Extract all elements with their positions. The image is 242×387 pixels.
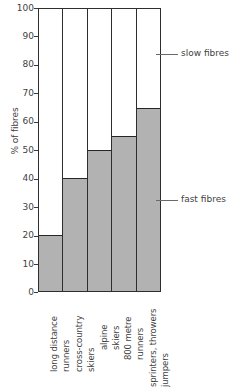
y-tick-label-10: 10: [12, 260, 34, 269]
bar-column-alpine-skiers: [88, 9, 112, 291]
y-tick-label-70: 70: [12, 89, 34, 98]
x-category-0-line-1: runners: [61, 316, 73, 372]
y-tick-label-100: 100: [12, 4, 34, 13]
x-category-4-line-0: sprinters, throwers: [148, 309, 160, 387]
bars-layer: [39, 9, 160, 291]
bar-column-sprinters-throwers-jumpers: [137, 9, 160, 291]
x-axis-categories: long distance runners cross-country skie…: [38, 292, 161, 374]
bar-fast-fibres-3: [112, 136, 135, 291]
x-category-0-line-0: long distance: [49, 316, 61, 372]
x-category-2-line-1: skiers: [111, 325, 123, 350]
x-category-1-line-1: skiers: [86, 316, 98, 372]
x-category-1-line-0: cross-country: [74, 316, 86, 372]
bar-fast-fibres-1: [63, 178, 86, 291]
fast-fibres-leader-line: [156, 200, 178, 201]
y-tick-label-80: 80: [12, 60, 34, 69]
bar-fast-fibres-2: [88, 150, 111, 291]
y-tick-label-40: 40: [12, 174, 34, 183]
y-tick-label-50: 50: [12, 146, 34, 155]
y-tick-label-60: 60: [12, 117, 34, 126]
bar-fast-fibres-0: [39, 235, 62, 291]
fast-fibres-label: fast fibres: [181, 194, 226, 204]
slow-fibres-leader-line: [156, 54, 178, 55]
bar-column-cross-country-skiers: [63, 9, 87, 291]
bar-column-800-metre-runners: [112, 9, 136, 291]
x-category-3-line-0: 800 metre: [123, 317, 135, 360]
bar-column-long-distance-runners: [39, 9, 63, 291]
slow-fibres-label: slow fibres: [181, 48, 229, 58]
y-tick-label-20: 20: [12, 231, 34, 240]
y-tick-label-0: 0: [12, 288, 34, 297]
y-axis-ticks: 100 90 80 70 60 50 40 30 20 10 0: [10, 0, 34, 374]
plot-area: [38, 8, 161, 292]
x-category-2-line-0: alpine: [99, 325, 111, 350]
y-tick-label-90: 90: [12, 32, 34, 41]
y-tick-label-30: 30: [12, 203, 34, 212]
x-category-4-line-1: jumpers: [160, 309, 172, 387]
x-category-3-line-1: runners: [135, 317, 147, 360]
